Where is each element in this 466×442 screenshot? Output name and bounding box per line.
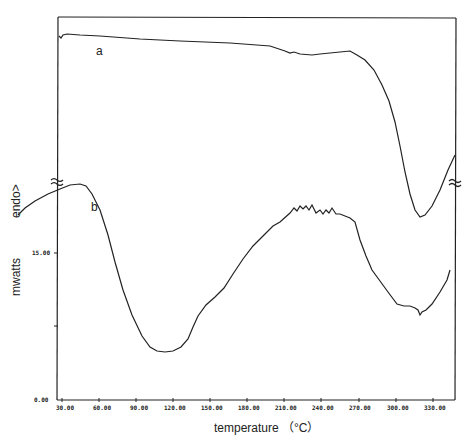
curve-label-a: a (96, 44, 103, 58)
dsc-chart: 15.00 0.00 30.00 60.00 90.00 120.00 150.… (0, 0, 466, 442)
x-tick-label: 150.00 (201, 404, 223, 411)
x-tick-labels: 30.00 60.00 90.00 120.00 150.00 180.00 2… (56, 404, 446, 411)
x-tick-label: 240.00 (312, 404, 334, 411)
plot-frame (57, 17, 456, 400)
x-tick-label: 30.00 (56, 404, 74, 411)
top-border (58, 17, 456, 18)
x-tick-label: 180.00 (238, 404, 260, 411)
y-axis-title: mwatts (9, 258, 23, 296)
y-axis-right (455, 18, 456, 400)
x-tick-label: 300.00 (387, 404, 409, 411)
curve-a (59, 34, 455, 217)
curve-b (18, 184, 450, 352)
y-axis-left (57, 17, 58, 400)
x-tick-label: 330.00 (424, 404, 446, 411)
x-tick-label: 90.00 (130, 404, 148, 411)
x-tick-label: 210.00 (275, 404, 297, 411)
x-axis-title: temperature （°C） (214, 421, 320, 435)
x-tick-label: 60.00 (93, 404, 111, 411)
curve-label-b: b (91, 200, 98, 214)
y-tick-label-0: 0.00 (34, 396, 49, 403)
x-tick-label: 270.00 (349, 404, 371, 411)
y-tick-label-15: 15.00 (32, 249, 50, 256)
x-tick-label: 120.00 (164, 404, 186, 411)
